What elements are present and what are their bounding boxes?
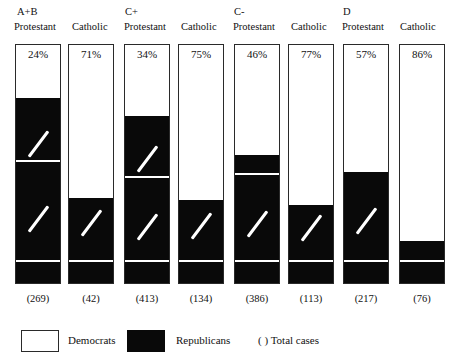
bar-divider-line — [69, 260, 113, 262]
bar-a-b-protestant: 24% — [15, 44, 61, 284]
legend-swatch-democrats — [21, 330, 59, 352]
bar-pct-label: 34% — [125, 48, 169, 61]
legend-label-democrats: Democrats — [68, 334, 116, 347]
column-label-3-protestant: Protestant — [124, 21, 166, 33]
bar-republican-segment — [179, 200, 223, 283]
bar-divider-line — [125, 260, 169, 262]
total-cases-d-protestant: (217) — [343, 293, 389, 305]
bar-c-plus-catholic: 75% — [178, 44, 224, 284]
bar-pct-label: 57% — [344, 48, 388, 61]
column-label-5-protestant: Protestant — [233, 21, 275, 33]
group-label-a-b: A+B — [17, 6, 38, 18]
bar-c-minus-catholic: 77% — [288, 44, 334, 284]
total-cases-d-catholic: (76) — [399, 293, 445, 305]
legend-label-total-cases: ( ) Total cases — [258, 334, 319, 347]
bar-republican-segment — [289, 205, 333, 283]
bar-republican-segment — [16, 98, 60, 283]
bar-republican-segment — [400, 241, 444, 283]
chart-canvas: A+B C+ C- D Protestant Catholic Protesta… — [0, 0, 461, 361]
group-label-d: D — [343, 6, 351, 18]
bar-divider-line — [16, 160, 60, 162]
total-cases-c-plus-catholic: (134) — [178, 293, 224, 305]
legend-swatch-republicans — [127, 330, 165, 352]
bar-divider-line — [16, 260, 60, 262]
column-label-1-protestant: Protestant — [14, 21, 56, 33]
bar-pct-label: 46% — [235, 48, 279, 61]
total-cases-a-b-catholic: (42) — [68, 293, 114, 305]
bar-divider-line — [289, 260, 333, 262]
group-label-c-plus: C+ — [125, 6, 138, 18]
column-label-6-catholic: Catholic — [291, 21, 327, 33]
column-label-7-protestant: Protestant — [342, 21, 384, 33]
total-cases-c-minus-catholic: (113) — [288, 293, 334, 305]
bar-pct-label: 24% — [16, 48, 60, 61]
bar-d-protestant: 57% — [343, 44, 389, 284]
bar-d-catholic: 86% — [399, 44, 445, 284]
legend-label-republicans: Republicans — [176, 334, 230, 347]
bar-c-plus-protestant: 34% — [124, 44, 170, 284]
bar-pct-label: 75% — [179, 48, 223, 61]
column-label-8-catholic: Catholic — [400, 21, 436, 33]
bar-a-b-catholic: 71% — [68, 44, 114, 284]
bar-divider-line — [125, 176, 169, 178]
bar-divider-line — [344, 260, 388, 262]
total-cases-c-minus-protestant: (386) — [234, 293, 280, 305]
bar-pct-label: 71% — [69, 48, 113, 61]
bar-divider-line — [179, 260, 223, 262]
bar-c-minus-protestant: 46% — [234, 44, 280, 284]
column-label-4-catholic: Catholic — [181, 21, 217, 33]
bar-republican-segment — [344, 172, 388, 283]
bar-divider-line — [235, 260, 279, 262]
bar-divider-line — [235, 173, 279, 175]
bar-pct-label: 86% — [400, 48, 444, 61]
bar-republican-segment — [69, 198, 113, 283]
bar-pct-label: 77% — [289, 48, 333, 61]
bar-divider-line — [400, 260, 444, 262]
total-cases-c-plus-protestant: (413) — [124, 293, 170, 305]
total-cases-a-b-protestant: (269) — [15, 293, 61, 305]
group-label-c-minus: C- — [234, 6, 245, 18]
column-label-2-catholic: Catholic — [72, 21, 108, 33]
bar-republican-segment — [125, 116, 169, 283]
